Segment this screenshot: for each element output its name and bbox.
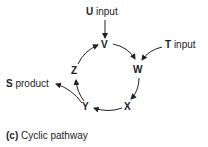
arrow-v-to-w <box>113 44 135 59</box>
u-input-label: U input <box>86 7 118 17</box>
arrow-x-to-y <box>94 108 122 111</box>
t-input-text: input <box>171 39 195 50</box>
figure-caption: (c) Cyclic pathway <box>6 131 88 141</box>
u-input-text: input <box>93 6 117 17</box>
arrow-w-to-x <box>131 78 139 99</box>
node-w: W <box>133 65 142 75</box>
arrow-t-to-w <box>142 47 162 60</box>
pathway-arrows <box>0 0 208 147</box>
node-z: Z <box>71 66 77 76</box>
caption-label: (c) <box>6 130 18 141</box>
node-y: Y <box>82 102 89 112</box>
arrow-z-to-v <box>78 45 98 64</box>
t-input-label: T input <box>165 40 196 50</box>
s-product-label: S product <box>6 79 49 89</box>
s-product-letter: S <box>6 78 13 89</box>
caption-text: Cyclic pathway <box>18 130 87 141</box>
node-x: X <box>124 102 131 112</box>
node-v: V <box>101 40 108 50</box>
s-product-text: product <box>13 78 49 89</box>
arrow-y-to-s <box>56 84 82 103</box>
